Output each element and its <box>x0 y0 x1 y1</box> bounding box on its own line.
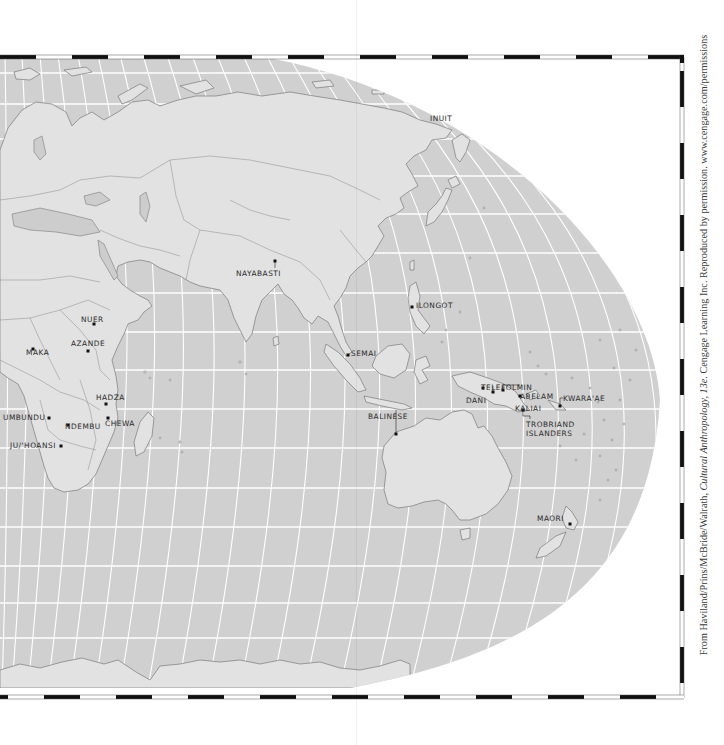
credit-title: Cultural Anthropology, 13e <box>698 379 709 491</box>
marker-umbundu <box>48 417 51 420</box>
culture-label-ndembu: NDEMBU <box>65 423 101 431</box>
marker-hadza <box>105 403 108 406</box>
culture-label-balinese: BALINESE <box>368 413 408 421</box>
marker-juhoansi <box>60 445 63 448</box>
credit-suffix: . Cengage Learning Inc. Reproduced by pe… <box>698 35 709 379</box>
marker-ilongot <box>411 306 414 309</box>
sri-lanka <box>273 336 279 346</box>
page-fold-line <box>356 0 357 745</box>
culture-label-hadza: HADZA <box>96 394 125 402</box>
culture-label-maka: MAKA <box>26 349 49 357</box>
marker-maori <box>569 523 572 526</box>
marker-semai <box>347 354 350 357</box>
culture-label-dani: DANI <box>466 397 486 405</box>
world-map-eastern-hemisphere: INUITNAYABASTIILONGOTNUERAZANDEMAKASEMAI… <box>0 0 724 745</box>
taiwan <box>410 260 414 270</box>
culture-label-semai: SEMAI <box>351 350 376 358</box>
culture-label-ilongot: ILONGOT <box>416 302 453 310</box>
culture-label-trobriand: TROBRIAND <box>526 421 575 429</box>
credit-line: From Haviland/Prins/McBride/Walrath, Cul… <box>698 35 709 655</box>
culture-label-kwaraae: KWARA'AE <box>563 395 605 403</box>
culture-label-juhoansi: JU/'HOANSI <box>10 442 56 450</box>
culture-label-chewa: CHEWA <box>105 420 135 428</box>
culture-label-maori: MAORI <box>537 515 564 523</box>
tasmania <box>460 528 470 540</box>
culture-label-abelam: ABELAM <box>520 393 554 401</box>
culture-label-nuer: NUER <box>81 316 104 324</box>
marker-azande <box>87 350 90 353</box>
culture-label-azande: AZANDE <box>71 340 105 348</box>
culture-label-telefolmin: TELEFOLMIN <box>481 384 532 392</box>
credit-prefix: From Haviland/Prins/McBride/Walrath, <box>698 491 709 656</box>
map-graphic <box>0 0 724 745</box>
culture-label-kaliai: KALIAI <box>515 405 541 413</box>
wrangel <box>372 90 384 94</box>
culture-label-trobriand2: ISLANDERS <box>526 430 572 438</box>
culture-label-inuit: INUIT <box>430 115 452 123</box>
culture-label-umbundu: UMBUNDU <box>3 414 45 422</box>
culture-label-nayabasti: NAYABASTI <box>236 270 281 278</box>
